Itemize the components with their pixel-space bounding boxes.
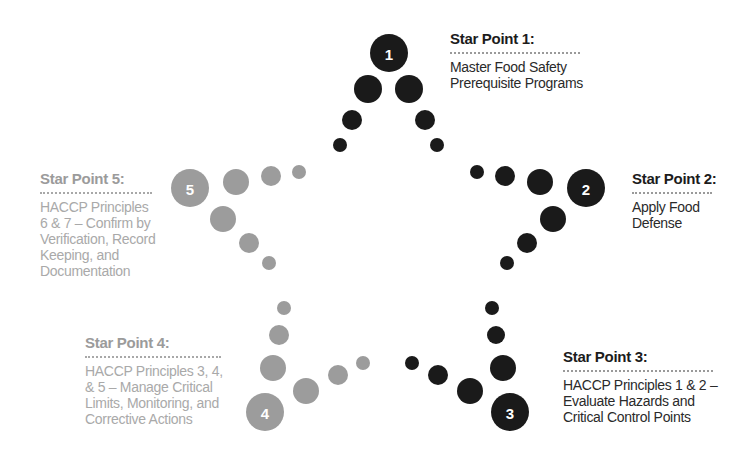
star-dot [261, 166, 281, 186]
dotted-divider [450, 52, 580, 54]
star-point-4-title: Star Point 4: [85, 334, 221, 352]
description-line: Keeping, and [40, 247, 152, 263]
star-dot [485, 301, 499, 315]
description-line: Documentation [40, 263, 152, 279]
star-dot [239, 233, 259, 253]
dotted-divider [40, 192, 152, 194]
star-dot [328, 365, 348, 385]
star-dot [457, 378, 483, 404]
star-dot [540, 206, 566, 232]
star-dot [354, 75, 382, 103]
star-dot [356, 356, 370, 370]
star-point-number: 3 [506, 405, 514, 422]
star-dot [415, 110, 435, 130]
star-dot [500, 256, 514, 270]
star-point-1-dots: 1 [333, 34, 444, 152]
star-point-3-dots: 3 [405, 301, 529, 431]
star-point-1-description: Master Food Safety Prerequisite Programs [450, 59, 580, 91]
description-line: HACCP Principles [40, 199, 152, 215]
star-point-number: 2 [582, 181, 590, 198]
star-point-2-label: Star Point 2: Apply Food Defense [632, 170, 712, 231]
star-dot [223, 169, 249, 195]
description-line: HACCP Principles 1 & 2 – [563, 377, 713, 393]
description-line: Master Food Safety [450, 59, 580, 75]
description-line: Defense [632, 215, 712, 231]
star-dot [333, 138, 347, 152]
description-line: Evaluate Hazards and [563, 393, 713, 409]
dotted-divider [563, 370, 713, 372]
description-line: Critical Control Points [563, 409, 713, 425]
star-dot [342, 110, 362, 130]
star-point-3-title: Star Point 3: [563, 348, 713, 366]
description-line: 6 & 7 – Confirm by [40, 215, 152, 231]
star-dot [527, 169, 553, 195]
star-point-5-description: HACCP Principles 6 & 7 – Confirm by Veri… [40, 199, 152, 279]
dotted-divider [632, 192, 712, 194]
star-point-number: 1 [385, 46, 393, 63]
description-line: Corrective Actions [85, 411, 221, 427]
description-line: Verification, Record [40, 231, 152, 247]
star-point-2-description: Apply Food Defense [632, 199, 712, 231]
dotted-divider [85, 356, 221, 358]
star-point-1-title: Star Point 1: [450, 30, 580, 48]
star-point-4-description: HACCP Principles 3, 4, & 5 – Manage Crit… [85, 363, 221, 427]
star-dot [293, 378, 319, 404]
star-dot [487, 326, 505, 344]
description-line: Apply Food [632, 199, 712, 215]
star-point-4-dots: 4 [246, 301, 370, 431]
star-point-2-dots: 2 [470, 165, 605, 270]
star-point-5-dots: 5 [171, 165, 306, 270]
star-dot [292, 165, 306, 179]
star-point-1-label: Star Point 1: Master Food Safety Prerequ… [450, 30, 580, 91]
star-point-5-title: Star Point 5: [40, 170, 152, 188]
star-dot [428, 365, 448, 385]
star-point-number: 4 [261, 405, 270, 422]
star-dot [470, 165, 484, 179]
description-line: HACCP Principles 3, 4, [85, 363, 221, 379]
star-dot [260, 355, 286, 381]
star-dot [405, 356, 419, 370]
star-point-number: 5 [186, 181, 194, 198]
star-dot [495, 166, 515, 186]
star-dot [395, 75, 423, 103]
star-dot [430, 138, 444, 152]
star-dot [490, 355, 516, 381]
description-line: Limits, Monitoring, and [85, 395, 221, 411]
star-dot [262, 256, 276, 270]
star-point-3-label: Star Point 3: HACCP Principles 1 & 2 – E… [563, 348, 713, 425]
description-line: & 5 – Manage Critical [85, 379, 221, 395]
description-line: Prerequisite Programs [450, 75, 580, 91]
star-point-2-title: Star Point 2: [632, 170, 712, 188]
star-point-3-description: HACCP Principles 1 & 2 – Evaluate Hazard… [563, 377, 713, 425]
star-dot [210, 206, 236, 232]
star-point-5-label: Star Point 5: HACCP Principles 6 & 7 – C… [40, 170, 152, 279]
star-point-4-label: Star Point 4: HACCP Principles 3, 4, & 5… [85, 334, 221, 427]
star-dot [277, 301, 291, 315]
star-dot [517, 233, 537, 253]
food-safety-star-diagram: 12345 Star Point 1: Master Food Safety P… [0, 0, 749, 461]
star-dot [269, 325, 289, 345]
